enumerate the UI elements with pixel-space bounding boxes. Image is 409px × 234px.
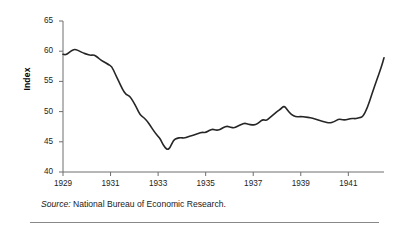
figure-container: Index 404550556065 192919311933193519371…	[0, 0, 409, 234]
y-tick-label: 40	[31, 167, 53, 176]
x-tick-label: 1929	[43, 179, 83, 188]
y-tick-label: 55	[31, 76, 53, 85]
source-note: Source: National Bureau of Economic Rese…	[41, 199, 226, 209]
x-tick-label: 1933	[138, 179, 178, 188]
x-tick-label: 1939	[281, 179, 321, 188]
index-series-line	[63, 50, 384, 150]
x-tick-label: 1941	[328, 179, 368, 188]
x-tick-label: 1937	[233, 179, 273, 188]
y-tick-label: 45	[31, 137, 53, 146]
x-axis-ticks	[63, 172, 348, 176]
x-tick-label: 1935	[186, 179, 226, 188]
x-tick-label: 1931	[91, 179, 131, 188]
chart-plot-area: Index 404550556065 192919311933193519371…	[0, 0, 409, 186]
y-axis-ticks	[59, 21, 63, 172]
source-label: Source:	[41, 199, 71, 209]
y-tick-label: 50	[31, 107, 53, 116]
source-value: National Bureau of Economic Research.	[73, 199, 226, 209]
y-tick-label: 60	[31, 46, 53, 55]
line-chart-svg	[0, 0, 409, 186]
bottom-divider	[30, 222, 379, 223]
y-tick-label: 65	[31, 16, 53, 25]
